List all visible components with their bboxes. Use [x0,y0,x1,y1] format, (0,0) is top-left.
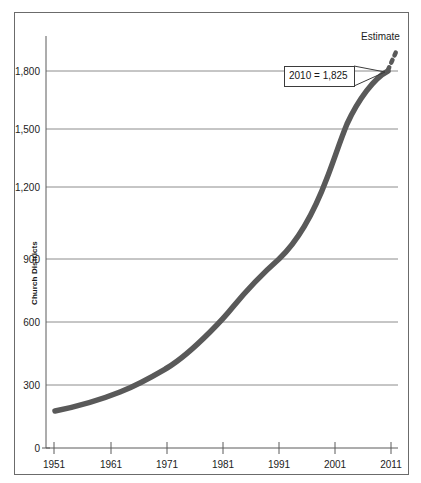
data-line-series-church-districts [55,71,388,411]
chart-plot-area [0,0,421,483]
y-tick-label-600: 600 [6,317,40,328]
chart-figure: 1,800 1,500 1,200 900 600 300 0 1951 196… [0,0,421,483]
x-tick-label-2011: 2011 [380,459,402,470]
data-line-estimate-dashed [388,52,396,70]
gridlines [46,71,398,385]
y-tick-label-1800: 1,800 [6,66,40,77]
x-tick-label-1981: 1981 [212,459,234,470]
callout-annotation-2010: 2010 = 1,825 [284,66,355,87]
x-tick-label-1951: 1951 [43,459,65,470]
y-tick-label-1200: 1,200 [6,182,40,193]
y-tick-label-300: 300 [6,380,40,391]
x-tick-label-1971: 1971 [156,459,178,470]
y-tick-label-0: 0 [6,443,40,454]
x-tick-label-1991: 1991 [268,459,290,470]
x-tick-label-2001: 2001 [324,459,346,470]
x-tick-label-1961: 1961 [100,459,122,470]
y-axis-title: Church Districts [30,241,39,305]
y-tick-label-1500: 1,500 [6,124,40,135]
estimate-label: Estimate [361,31,400,42]
